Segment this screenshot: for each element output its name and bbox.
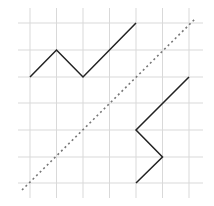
reflection-diagram — [0, 0, 214, 206]
grid — [18, 8, 203, 198]
